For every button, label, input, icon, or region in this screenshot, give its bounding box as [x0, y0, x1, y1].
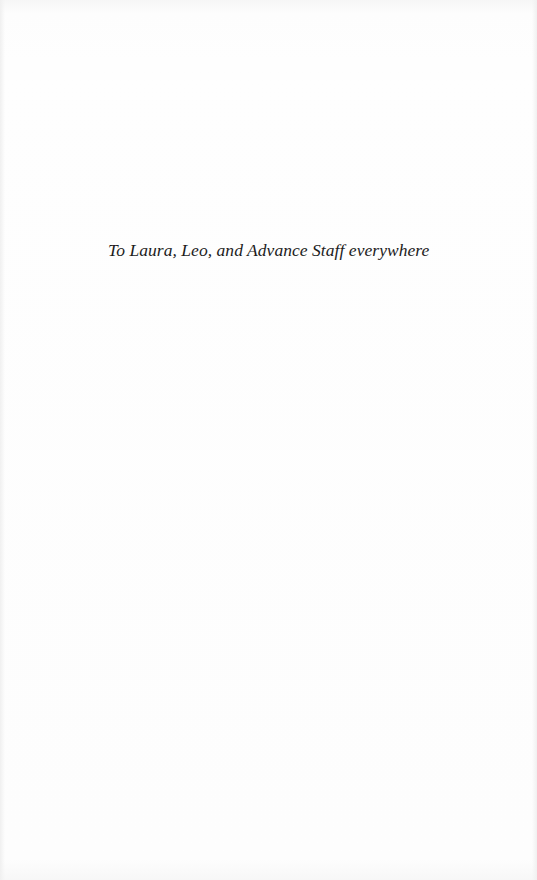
book-page: To Laura, Leo, and Advance Staff everywh… [0, 0, 537, 880]
dedication-text: To Laura, Leo, and Advance Staff everywh… [108, 240, 429, 260]
scan-edge-left [0, 0, 5, 880]
scan-edge-right [532, 0, 537, 880]
